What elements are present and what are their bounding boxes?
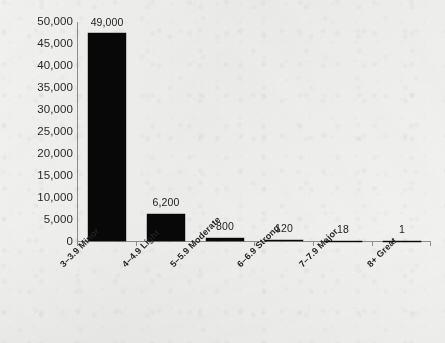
y-tick-label: 15,000	[0, 170, 73, 182]
y-tick-label: 0	[0, 236, 73, 248]
y-tick-label: 10,000	[0, 192, 73, 204]
y-tick-label: 50,000	[0, 16, 73, 28]
bar-value-label: 1	[374, 224, 430, 235]
bar-3-3-9-minor	[88, 33, 126, 241]
x-tick-mark	[372, 241, 373, 246]
y-tick-label: 5,000	[0, 214, 73, 226]
y-tick-label: 35,000	[0, 82, 73, 94]
bar-chart: 50,000 45,000 40,000 35,000 30,000 25,00…	[0, 0, 445, 343]
x-category-label-4-4-9-light: 4–4.9 Light	[120, 228, 161, 269]
x-tick-mark	[430, 241, 431, 246]
chart-page: 50,000 45,000 40,000 35,000 30,000 25,00…	[0, 0, 445, 343]
y-tick-label: 25,000	[0, 126, 73, 138]
y-axis-line	[77, 22, 78, 242]
bar-value-label: 49,000	[79, 17, 135, 28]
bar-value-label: 6,200	[138, 197, 194, 208]
y-tick-label: 45,000	[0, 38, 73, 50]
bar-5-5-9-moderate	[206, 238, 244, 242]
y-tick-label: 40,000	[0, 60, 73, 72]
y-tick-label: 20,000	[0, 148, 73, 160]
y-tick-label: 30,000	[0, 104, 73, 116]
y-axis-tick-labels: 50,000 45,000 40,000 35,000 30,000 25,00…	[0, 0, 73, 343]
bar-value-label: 18	[315, 224, 371, 235]
